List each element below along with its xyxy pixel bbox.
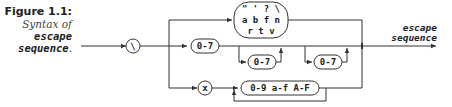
svg-text:0-7: 0-7 bbox=[197, 41, 213, 51]
syntax-diagram: \ " ' ? \ a b f n r t v 0-7 0-7 0-7 x 0-… bbox=[0, 0, 452, 107]
svg-text:\: \ bbox=[130, 42, 135, 52]
svg-text:0-7: 0-7 bbox=[254, 57, 270, 67]
octal-digit-box-2: 0-7 bbox=[248, 55, 276, 69]
simple-escape-box: " ' ? \ a b f n r t v bbox=[234, 2, 288, 38]
hex-digit-box: 0-9 a-f A-F bbox=[241, 81, 319, 95]
hex-prefix-terminal: x bbox=[198, 81, 212, 95]
svg-text:r t v: r t v bbox=[247, 26, 275, 36]
svg-text:a b f n: a b f n bbox=[242, 15, 280, 25]
output-label-line2: sequence bbox=[391, 32, 437, 43]
svg-text:" ' ? \: " ' ? \ bbox=[242, 4, 280, 14]
svg-text:x: x bbox=[202, 83, 208, 93]
svg-text:0-7: 0-7 bbox=[320, 57, 336, 67]
octal-digit-box-3: 0-7 bbox=[314, 55, 342, 69]
backslash-terminal: \ bbox=[126, 39, 140, 53]
svg-text:0-9 a-f A-F: 0-9 a-f A-F bbox=[250, 83, 310, 93]
octal-digit-box-1: 0-7 bbox=[191, 39, 219, 53]
